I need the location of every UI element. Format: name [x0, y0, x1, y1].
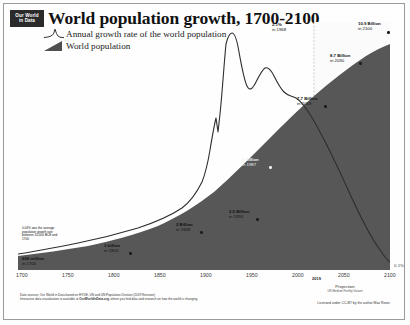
x-tick-1800: 1800 — [108, 272, 120, 278]
footer-source-suffix: , where you find data and research on ho… — [109, 297, 198, 301]
x-axis: 1700 1750 1800 1850 1900 1950 2000 2019 … — [0, 272, 410, 284]
x-tick-2000: 2000 — [292, 272, 304, 278]
annotation-5-billion-year: in 1987 — [242, 162, 259, 167]
datapoint-2-5-billion — [256, 218, 259, 221]
annotation-7-7-billion-year: in 2019 — [297, 101, 317, 106]
datapoint-10-9-billion — [387, 31, 390, 34]
datapoint-8-7-billion — [359, 62, 362, 65]
annotation-10-9-billion: 10.9 Billion in 2100 — [358, 21, 381, 31]
x-tick-1700: 1700 — [16, 272, 28, 278]
datapoint-2-billion — [200, 231, 203, 234]
footer-source-prefix: Interactive data visualization is availa… — [20, 297, 79, 301]
datapoint-1-billion — [129, 252, 132, 255]
x-tick-1900: 1900 — [200, 272, 212, 278]
annotation-2-5-billion: 2.5 Billion in 1950 — [229, 209, 249, 219]
annotation-600-million-year: in 1700 — [22, 261, 44, 266]
x-tick-1750: 1750 — [62, 272, 74, 278]
annotation-2-5-billion-year: in 1950 — [229, 214, 249, 219]
datapoint-7-7-billion — [324, 105, 327, 108]
projection-label-sub: UN Medium Fertility Variant — [300, 289, 390, 293]
annotation-2-billion-year: in 1928 — [176, 227, 193, 232]
x-tick-1950: 1950 — [246, 272, 258, 278]
annotation-average-growth-note: 0.04% was the average population growth … — [22, 227, 58, 241]
annotation-10-9-billion-year: in 2100 — [358, 26, 381, 31]
annotation-7-7-billion: 7.7 Billion in 2019 — [297, 96, 317, 106]
annotation-1-billion: 1 billion in 1803 — [104, 243, 120, 253]
x-tick-2050: 2050 — [338, 272, 350, 278]
footer-sources: Data sources: Our World in Data based on… — [20, 293, 198, 301]
datapoint-5-billion — [269, 166, 272, 169]
footer-source-line-2: Interactive data visualization is availa… — [20, 297, 198, 301]
footer-license: Licensed under CC-BY by the author Max R… — [317, 301, 390, 305]
annotation-peak-growth: 2.1% in 1968 — [272, 22, 286, 32]
y-axis-right-zero-label: 0.1% — [394, 263, 404, 268]
annotation-1-billion-year: in 1803 — [104, 248, 120, 253]
annotation-2-billion: 2 Billion in 1928 — [176, 222, 193, 232]
x-tick-1850: 1850 — [154, 272, 166, 278]
x-tick-2100: 2100 — [384, 272, 396, 278]
annotation-8-7-billion-year: in 2030 — [330, 58, 350, 63]
projection-label: Projection UN Medium Fertility Variant — [300, 284, 390, 293]
annotation-peak-growth-year: in 1968 — [272, 27, 286, 32]
footer-source-site[interactable]: OurWorldInData.org — [79, 297, 109, 301]
annotation-5-billion: 5 Billion in 1987 — [242, 157, 259, 167]
chart-screenshot: Our World in Data World population growt… — [0, 0, 410, 325]
annotation-600-million: 600 million in 1700 — [22, 256, 44, 266]
annotation-8-7-billion: 8.7 Billion in 2030 — [330, 53, 350, 63]
x-tick-2019-marker: 2019 — [312, 276, 321, 281]
